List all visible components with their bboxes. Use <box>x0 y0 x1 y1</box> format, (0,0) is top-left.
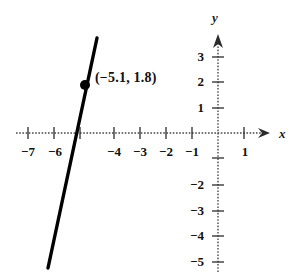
x-tick-label-minus1: −1 <box>185 144 199 160</box>
y-tick-label-minus4: −4 <box>180 228 204 244</box>
y-tick-label-minus2: −2 <box>180 177 204 193</box>
y-tick-label-minus5: −5 <box>180 254 204 270</box>
x-tick-label-minus6: −6 <box>48 144 62 160</box>
y-axis-label: y <box>212 10 218 26</box>
x-tick-label-minus7: −7 <box>21 144 35 160</box>
x-tick-label-1: 1 <box>242 144 249 160</box>
y-axis-arrowhead <box>213 34 223 48</box>
coordinate-plane-figure: x y −7 −6 −4 −3 −2 −1 1 3 2 1 −2 −3 −4 −… <box>0 0 293 278</box>
graph-canvas <box>0 0 293 278</box>
x-axis-label: x <box>279 126 286 142</box>
x-tick-label-minus4: −4 <box>107 144 121 160</box>
x-tick-label-minus3: −3 <box>133 144 147 160</box>
y-tick-label-minus3: −3 <box>180 203 204 219</box>
point-coordinate-label: (−5.1, 1.8) <box>95 70 157 86</box>
y-tick-label-3: 3 <box>186 49 204 65</box>
y-tick-label-2: 2 <box>186 74 204 90</box>
y-tick-label-1: 1 <box>186 100 204 116</box>
x-tick-label-minus2: −2 <box>159 144 173 160</box>
data-point-marker <box>80 80 90 90</box>
